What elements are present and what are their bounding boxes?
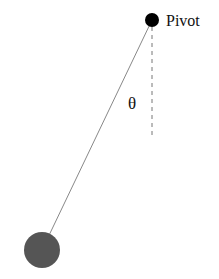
pivot-point — [145, 13, 159, 27]
pendulum-bob — [24, 232, 60, 268]
pendulum-drawing — [0, 0, 219, 279]
pendulum-diagram: Pivot θ — [0, 0, 219, 279]
pivot-label: Pivot — [166, 12, 200, 30]
pendulum-string — [42, 20, 152, 250]
angle-label: θ — [128, 94, 136, 114]
